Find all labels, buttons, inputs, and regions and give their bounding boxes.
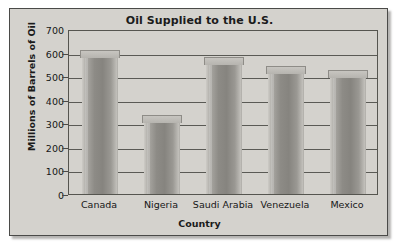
bar-cap [142,115,182,123]
x-axis-title: Country [10,218,389,229]
bar-slot [82,31,118,194]
x-axis-tick-label: Saudi Arabia [193,199,253,210]
bar[interactable] [144,122,180,194]
bar[interactable] [82,57,118,194]
bar[interactable] [330,77,366,194]
bar-highlight [333,77,336,194]
chart-title: Oil Supplied to the U.S. [10,14,389,27]
plot-area [68,30,378,195]
bar[interactable] [206,64,242,194]
chart-figure: Oil Supplied to the U.S. Millions of Bar… [0,0,402,251]
bar-cap [80,50,120,58]
bar-cap [204,57,244,65]
y-axis-tick-label: 200 [30,142,64,153]
y-axis-tick-label: 100 [30,166,64,177]
bar-cap [328,70,368,78]
y-axis-tick-mark [62,195,68,196]
x-axis-tick-label: Nigeria [144,199,178,210]
y-axis-tick-label: 700 [30,25,64,36]
bar-highlight [209,64,212,194]
bar-highlight [147,122,150,194]
y-axis-tick-label: 400 [30,95,64,106]
bar-slot [330,31,366,194]
chart-panel: Oil Supplied to the U.S. Millions of Bar… [9,8,388,236]
y-axis-tick-labels: 0100200300400500600700 [24,30,64,195]
bar-slot [144,31,180,194]
bar-slot [206,31,242,194]
bar[interactable] [268,73,304,194]
x-axis-tick-labels: CanadaNigeriaSaudi ArabiaVenezuelaMexico [68,199,378,213]
x-axis-tick-label: Venezuela [261,199,310,210]
bar-slot [268,31,304,194]
y-axis-tick-label: 500 [30,72,64,83]
bar-highlight [85,57,88,194]
y-axis-tick-label: 300 [30,119,64,130]
x-axis-tick-label: Mexico [330,199,363,210]
x-axis-tick-label: Canada [81,199,117,210]
bar-highlight [271,73,274,194]
bar-cap [266,66,306,74]
y-axis-tick-label: 0 [30,190,64,201]
y-axis-tick-label: 600 [30,48,64,59]
